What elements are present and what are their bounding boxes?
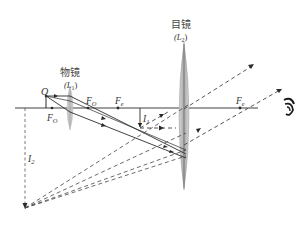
- objective-lens: [67, 86, 73, 130]
- eye-icon: [284, 99, 294, 115]
- ray-arrowhead: [54, 94, 58, 98]
- emergent-rays: [140, 66, 280, 145]
- ray-arrowhead: [196, 128, 201, 133]
- focal-label-objective-right: FO: [85, 96, 97, 107]
- final-image-label: I2: [27, 154, 35, 165]
- focal-point-objective-left: [51, 107, 54, 110]
- final-image-arrowhead: [23, 203, 28, 209]
- focal-point-eyepiece-right: [239, 107, 242, 110]
- objective-symbol: (L1): [64, 80, 78, 91]
- objective-name: 物镜: [60, 66, 80, 78]
- focal-label-eyepiece-left: Fe: [114, 96, 124, 107]
- focal-label-objective-left: FO: [46, 113, 58, 124]
- ray-arrowhead: [163, 145, 168, 148]
- eyepiece-symbol: (L2): [174, 32, 188, 43]
- emergent-arrowhead: [248, 64, 254, 69]
- ray-arrowhead: [101, 116, 106, 120]
- focal-point-objective-right: [87, 107, 90, 110]
- intermediate-image-label: I1: [142, 114, 149, 125]
- focal-point-eyepiece-left: [117, 107, 120, 110]
- focal-label-eyepiece-right: Fe: [235, 96, 245, 107]
- eyepiece-name: 目镜: [171, 18, 191, 30]
- emergent-arrowhead: [276, 89, 282, 93]
- microscope-diagram: 物镜 (L1) 目镜 (L2) O FO FO Fe Fe I1 I2: [0, 0, 308, 226]
- ray-arrowhead: [159, 126, 164, 131]
- object-label: O: [41, 86, 48, 97]
- ray-arrowhead: [159, 114, 164, 118]
